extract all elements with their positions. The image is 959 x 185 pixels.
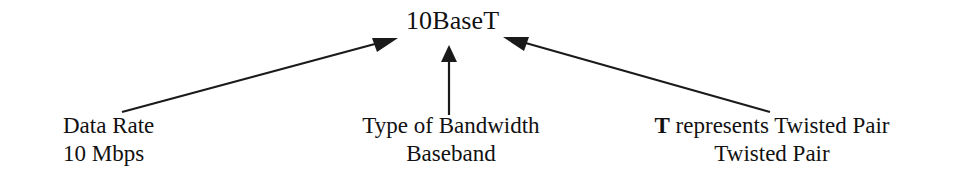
arrow-middle	[441, 45, 457, 115]
arrow-right-head	[503, 37, 529, 51]
diagram-canvas: 10BaseT Data Rate 10 Mbps Type of Bandwi…	[0, 0, 959, 185]
arrow-right	[503, 37, 770, 112]
label-data-rate-line2: 10 Mbps	[63, 140, 154, 168]
label-bandwidth-type-line2: Baseband	[336, 140, 566, 168]
label-bandwidth-type: Type of Bandwidth Baseband	[336, 112, 566, 168]
arrow-left	[122, 38, 398, 112]
arrow-right-shaft	[515, 40, 770, 112]
term-title: 10BaseT	[406, 7, 499, 34]
label-twisted-pair: T represents Twisted Pair Twisted Pair	[636, 112, 908, 168]
arrow-left-head	[372, 38, 398, 52]
label-twisted-pair-line1-rest: represents Twisted Pair	[670, 113, 890, 138]
label-twisted-pair-line1: T represents Twisted Pair	[636, 112, 908, 140]
label-twisted-pair-bold-t: T	[655, 113, 670, 138]
arrow-middle-head	[441, 45, 457, 62]
label-data-rate: Data Rate 10 Mbps	[63, 112, 154, 168]
label-bandwidth-type-line1: Type of Bandwidth	[336, 112, 566, 140]
label-twisted-pair-line2: Twisted Pair	[636, 140, 908, 168]
label-data-rate-line1: Data Rate	[63, 112, 154, 140]
arrow-left-shaft	[122, 41, 386, 112]
